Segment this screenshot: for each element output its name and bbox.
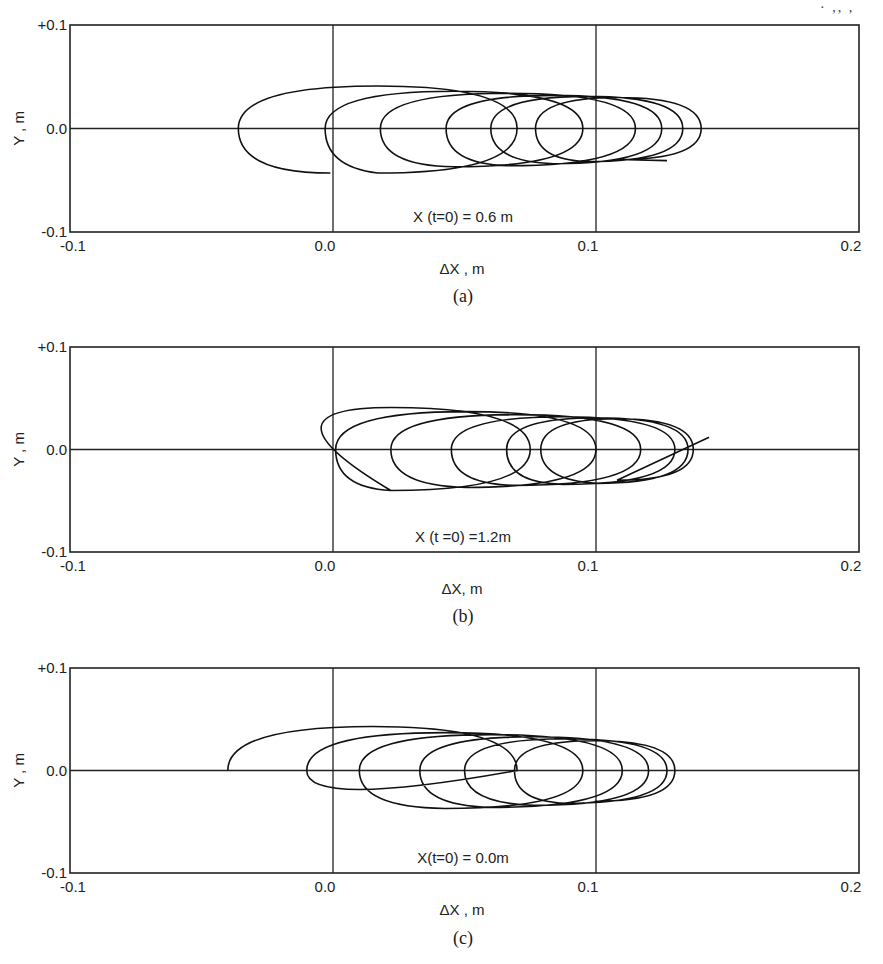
- y-tick-label: 0.0: [46, 441, 67, 458]
- initial-position-annotation: X (t =0) =1.2m: [415, 528, 511, 545]
- panel-caption: (a): [413, 286, 513, 307]
- x-tick-label: 0.2: [841, 237, 862, 254]
- x-tick-label: 0.0: [315, 237, 336, 254]
- x-axis-label: ΔX , m: [439, 260, 484, 277]
- x-tick-label: 0.1: [578, 878, 599, 895]
- x-tick-label: -0.1: [60, 237, 86, 254]
- x-tick-label: 0.1: [578, 237, 599, 254]
- panel-caption: (b): [413, 606, 513, 627]
- y-tick-label: 0.0: [46, 762, 67, 779]
- y-axis-label: Y , m: [10, 753, 27, 788]
- initial-position-annotation: X(t=0) = 0.0m: [417, 849, 509, 866]
- y-axis-label: Y , m: [10, 111, 27, 146]
- x-tick-label: -0.1: [60, 878, 86, 895]
- y-tick-label: +0.1: [37, 338, 67, 355]
- x-tick-label: 0.0: [315, 557, 336, 574]
- x-tick-label: 0.2: [841, 557, 862, 574]
- y-tick-label: 0.0: [46, 120, 67, 137]
- panel-caption: (c): [413, 928, 513, 949]
- x-axis-label: ΔX , m: [439, 901, 484, 918]
- trajectory-curve: [228, 726, 675, 808]
- y-axis-label: Y , m: [10, 432, 27, 467]
- x-tick-label: 0.2: [841, 878, 862, 895]
- chart-panel-b: +0.10.0-0.1-0.10.00.10.2Y , mΔX, mX (t =…: [0, 322, 883, 642]
- y-tick-label: +0.1: [37, 16, 67, 33]
- x-tick-label: -0.1: [60, 557, 86, 574]
- trajectory-curve: [238, 86, 701, 173]
- chart-panel-c: +0.10.0-0.1-0.10.00.10.2Y , mΔX , mX(t=0…: [0, 643, 883, 963]
- y-tick-label: +0.1: [37, 659, 67, 676]
- x-tick-label: 0.0: [315, 878, 336, 895]
- x-tick-label: 0.1: [578, 557, 599, 574]
- chart-panel-a: +0.10.0-0.1-0.10.00.10.2Y , mΔX , mX (t=…: [0, 0, 883, 320]
- x-axis-label: ΔX, m: [442, 580, 483, 597]
- initial-position-annotation: X (t=0) = 0.6 m: [413, 208, 513, 225]
